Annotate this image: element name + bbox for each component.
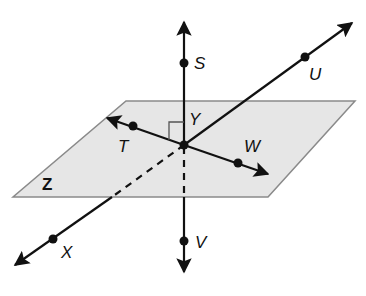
point-x xyxy=(49,235,58,244)
label-y: Y xyxy=(189,110,202,129)
point-v xyxy=(180,237,189,246)
label-plane-z: Z xyxy=(42,175,52,194)
label-v: V xyxy=(195,233,208,252)
point-t xyxy=(129,122,138,131)
point-w xyxy=(234,159,243,168)
geometry-diagram: S U T Y W X V Z xyxy=(0,0,366,296)
point-u xyxy=(301,53,310,62)
point-y xyxy=(180,141,189,150)
point-s xyxy=(180,59,189,68)
label-w: W xyxy=(244,137,262,156)
label-u: U xyxy=(309,65,322,84)
label-t: T xyxy=(118,137,130,156)
label-s: S xyxy=(194,54,206,73)
label-x: X xyxy=(60,243,73,262)
